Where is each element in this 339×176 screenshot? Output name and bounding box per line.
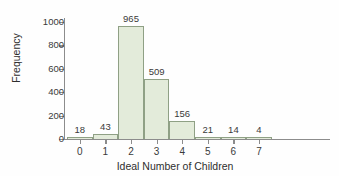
x-axis-tick-mark xyxy=(182,139,183,144)
histogram-bar xyxy=(93,134,119,139)
bar-value-label: 156 xyxy=(162,109,202,119)
x-axis-tick-mark xyxy=(131,139,132,144)
x-axis-tick-mark xyxy=(259,139,260,144)
histogram-bar xyxy=(67,137,93,139)
y-axis-tick-label: 800 xyxy=(34,40,64,50)
y-axis-tick-label-wrap: 600 xyxy=(25,64,64,74)
x-axis-tick-mark xyxy=(157,139,158,144)
x-axis-tick-label: 0 xyxy=(67,146,93,157)
x-axis-title: Ideal Number of Children xyxy=(64,160,286,172)
x-axis-tick-label: 2 xyxy=(118,146,144,157)
x-axis-tick-label: 3 xyxy=(144,146,170,157)
x-axis-tick-mark xyxy=(208,139,209,144)
y-axis-tick-label: 600 xyxy=(34,64,64,74)
histogram-bar xyxy=(195,137,221,139)
x-axis-line xyxy=(64,139,330,140)
y-axis-tick-label-wrap: 200 xyxy=(25,111,64,121)
x-axis-tick-label: 5 xyxy=(195,146,221,157)
y-axis-tick-label: 400 xyxy=(34,87,64,97)
x-axis-tick-label: 1 xyxy=(92,146,118,157)
bar-value-label: 509 xyxy=(137,67,177,77)
y-axis-tick-label-wrap: 1000 xyxy=(25,17,64,27)
y-axis-tick-label: 1000 xyxy=(34,17,64,27)
x-axis-tick-mark xyxy=(233,139,234,144)
histogram-bar xyxy=(246,137,272,139)
y-axis-tick-label-wrap: 800 xyxy=(25,40,64,50)
x-axis-tick-mark xyxy=(105,139,106,144)
y-axis-tick-label: 0 xyxy=(34,134,64,144)
bar-value-label: 4 xyxy=(239,125,279,135)
x-axis-tick-label: 7 xyxy=(246,146,272,157)
y-axis-title: Frequency xyxy=(10,18,22,98)
x-axis-tick-label: 6 xyxy=(220,146,246,157)
x-axis-tick-label: 4 xyxy=(169,146,195,157)
y-axis-tick-label-wrap: 400 xyxy=(25,87,64,97)
x-axis-tick-mark xyxy=(80,139,81,144)
y-axis-line xyxy=(64,18,65,139)
histogram-bar xyxy=(118,26,144,139)
histogram-figure: 02004006008001000 01234567 1843965509156… xyxy=(0,0,339,176)
y-axis-tick-label-wrap: 0 xyxy=(25,134,64,144)
histogram-bar xyxy=(221,137,247,139)
y-axis-tick-label: 200 xyxy=(34,111,64,121)
bar-value-label: 965 xyxy=(111,14,151,24)
